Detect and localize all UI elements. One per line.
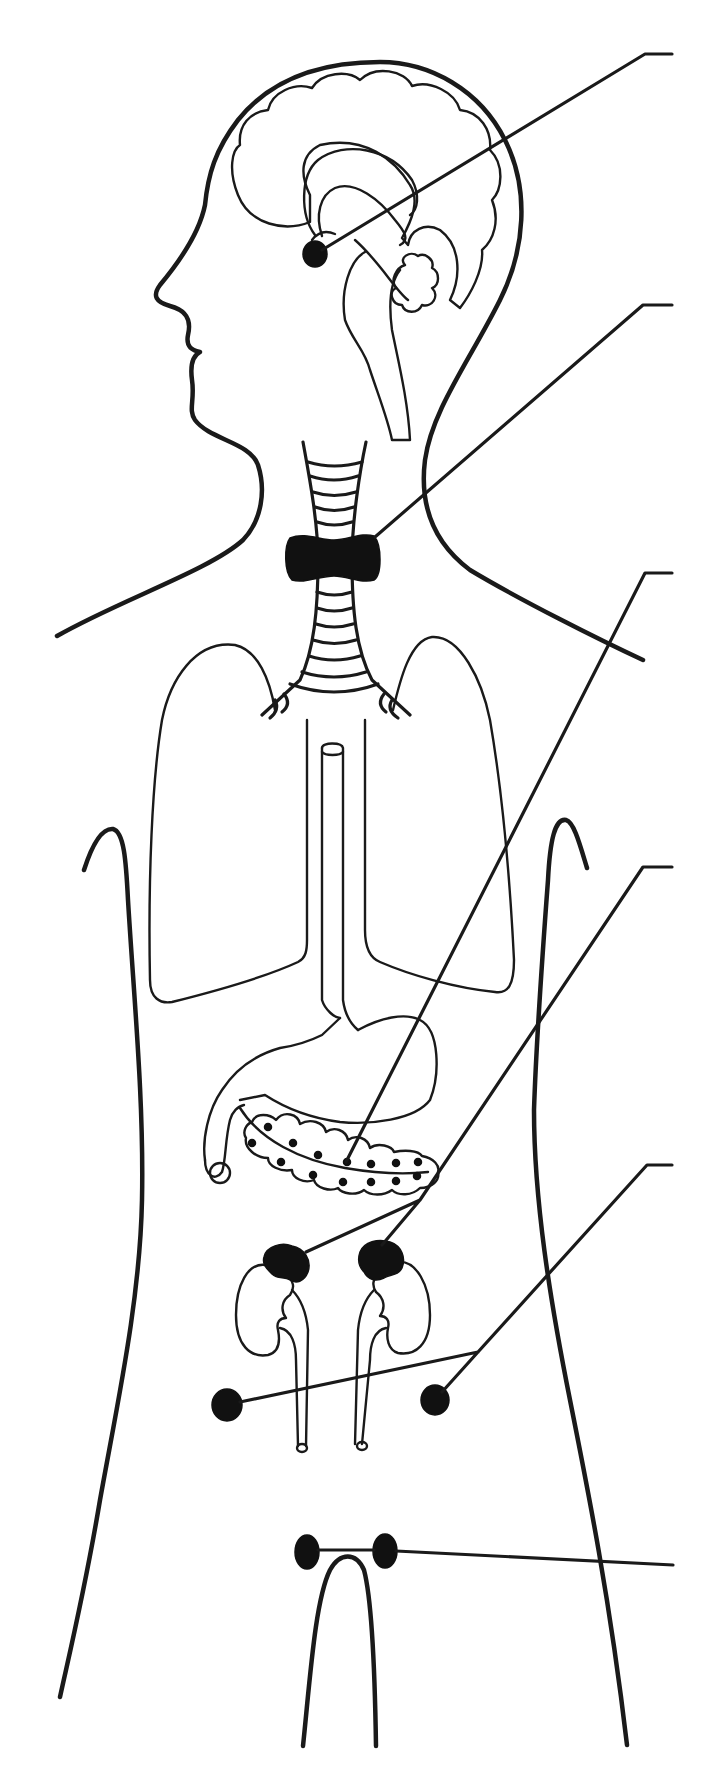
left-adrenal-gland: [263, 1244, 309, 1281]
label-slot-2: [676, 295, 716, 315]
thyroid-gland: [286, 535, 380, 581]
right-adrenal-gland: [359, 1240, 404, 1280]
right-testis: [373, 1534, 397, 1568]
body-outline: [57, 62, 643, 1746]
kidneys: [236, 1240, 430, 1452]
brain: [232, 71, 500, 440]
leader-ovary: [240, 1165, 672, 1402]
islets: [249, 1124, 422, 1186]
label-slot-3: [676, 563, 716, 583]
cerebellum: [392, 254, 438, 312]
thalamus-outline: [319, 186, 406, 245]
left-ovary: [212, 1389, 242, 1421]
cerebrum-outline: [232, 71, 500, 308]
endocrine-diagram: [0, 0, 726, 1775]
leader-adrenal: [306, 867, 672, 1252]
right-lung: [365, 637, 514, 992]
esophagus-left: [322, 748, 340, 1018]
brainstem-outline: [344, 252, 410, 440]
trachea-rings: [270, 462, 398, 718]
label-slot-4: [676, 857, 716, 877]
trachea: [262, 442, 410, 718]
left-lung: [150, 645, 308, 1003]
left-testis: [295, 1535, 319, 1569]
stomach: [204, 1016, 436, 1160]
label-slot-1: [676, 44, 716, 64]
corpus-callosum: [304, 149, 417, 235]
digestive: [204, 744, 436, 1184]
pituitary-gland: [303, 241, 327, 267]
left-torso-outline: [60, 829, 142, 1697]
label-slot-5: [676, 1155, 716, 1175]
esophagus: [322, 744, 358, 1031]
label-slot-6: [676, 1555, 716, 1575]
leader-testis: [318, 1550, 673, 1565]
leader-thyroid: [375, 305, 672, 537]
esophagus-top: [322, 752, 343, 755]
pituitary-stalk: [312, 232, 335, 240]
crotch-outline: [303, 1557, 376, 1747]
